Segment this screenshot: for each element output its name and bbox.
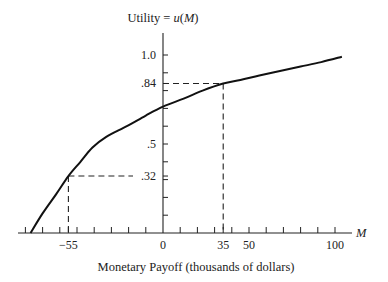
y-tick-label: .5 bbox=[147, 137, 156, 151]
y-title-close: ) bbox=[194, 11, 198, 25]
ticks bbox=[25, 55, 335, 233]
y-axis-title: Utility = u(M) bbox=[128, 11, 199, 25]
x-tick-label: 35 bbox=[217, 238, 229, 252]
y-title-var: M bbox=[183, 11, 195, 25]
utility-chart: −55035501001.0.84.5.32 Utility = u(M) Mo… bbox=[0, 0, 388, 282]
y-tick-label: .32 bbox=[141, 169, 156, 183]
y-tick-label: 1.0 bbox=[141, 48, 156, 62]
tick-labels: −55035501001.0.84.5.32 bbox=[59, 48, 344, 252]
x-axis-title: Monetary Payoff (thousands of dollars) bbox=[98, 260, 295, 274]
x-axis-variable: M bbox=[355, 226, 367, 240]
axes bbox=[18, 33, 352, 233]
x-tick-label: 50 bbox=[243, 238, 255, 252]
y-tick-label: .84 bbox=[141, 76, 156, 90]
x-tick-label: 0 bbox=[160, 238, 166, 252]
y-title-prefix: Utility = bbox=[128, 11, 174, 25]
reference-guides bbox=[68, 83, 223, 233]
x-tick-label: −55 bbox=[59, 238, 78, 252]
x-tick-label: 100 bbox=[326, 238, 344, 252]
